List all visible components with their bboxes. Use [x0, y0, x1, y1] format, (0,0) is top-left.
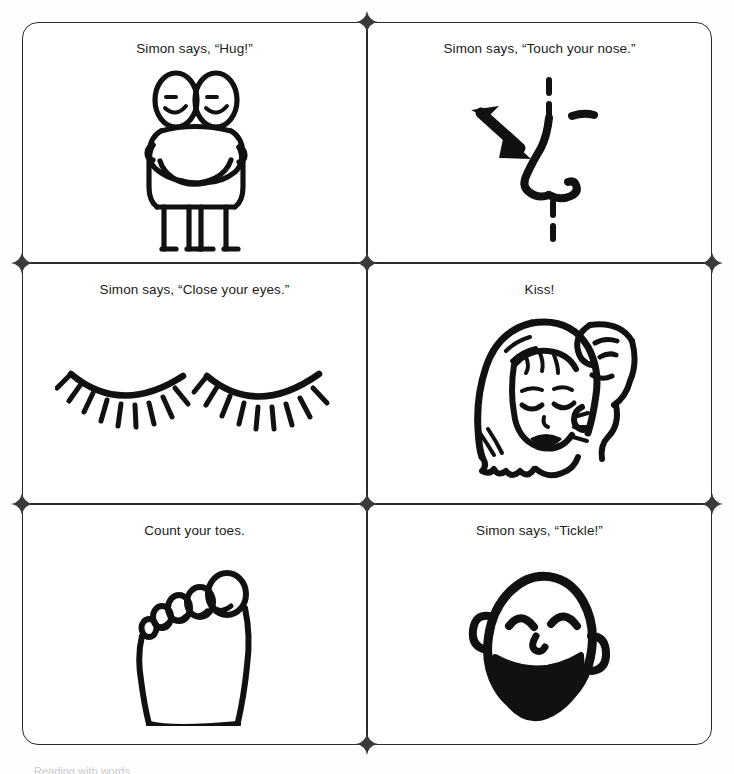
card-touch-nose[interactable]: Simon says, “Touch your nose.” [367, 22, 712, 263]
closed-eyes-illustration [23, 308, 366, 498]
card-hug[interactable]: Simon says, “Hug!” [22, 22, 367, 263]
foot-with-toes-illustration [23, 549, 366, 739]
card-count-toes[interactable]: Count your toes. [22, 504, 367, 745]
kiss-on-cheek-illustration [368, 308, 711, 498]
card-caption: Kiss! [368, 282, 711, 298]
nose-with-arrow-illustration [368, 67, 711, 257]
card-caption: Simon says, “Close your eyes.” [23, 282, 366, 298]
card-caption: Simon says, “Touch your nose.” [368, 41, 711, 57]
card-grid: Simon says, “Hug!” [22, 22, 712, 744]
card-caption: Count your toes. [23, 523, 366, 539]
footer-note: Reading with words [34, 765, 130, 774]
card-caption: Simon says, “Hug!” [23, 41, 366, 57]
card-tickle[interactable]: Simon says, “Tickle!” [367, 504, 712, 745]
two-people-hugging-illustration [23, 67, 366, 257]
card-caption: Simon says, “Tickle!” [368, 523, 711, 539]
card-kiss[interactable]: Kiss! [367, 263, 712, 504]
card-close-eyes[interactable]: Simon says, “Close your eyes.” [22, 263, 367, 504]
laughing-face-illustration [368, 549, 711, 739]
